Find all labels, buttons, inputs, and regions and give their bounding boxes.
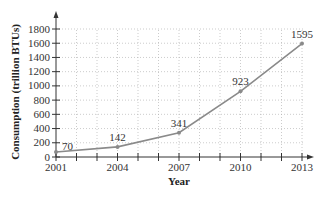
data-point — [177, 131, 181, 135]
x-tick-label: 2010 — [230, 161, 253, 173]
grid-lines — [56, 29, 304, 157]
y-axis-ticks: 020040060080010001200140016001800 — [28, 23, 60, 163]
data-label: 70 — [62, 140, 74, 152]
y-tick-label: 1800 — [28, 23, 51, 35]
y-tick-label: 400 — [34, 122, 51, 134]
data-point — [116, 145, 120, 149]
x-axis-ticks: 20012004200720102013 — [45, 153, 314, 173]
x-tick-label: 2004 — [107, 161, 130, 173]
y-tick-label: 1400 — [28, 51, 51, 63]
data-point — [239, 89, 243, 93]
data-label: 341 — [171, 117, 188, 129]
line-chart: 020040060080010001200140016001800 200120… — [0, 0, 324, 199]
data-point — [300, 42, 304, 46]
y-tick-label: 600 — [34, 108, 51, 120]
data-series: 701423419231595 — [54, 28, 314, 154]
x-axis-arrow-icon — [307, 155, 314, 160]
y-tick-label: 1000 — [28, 79, 51, 91]
data-label: 923 — [232, 75, 249, 87]
x-tick-label: 2013 — [291, 161, 314, 173]
y-tick-label: 1200 — [28, 65, 51, 77]
x-tick-label: 2001 — [45, 161, 67, 173]
data-label: 142 — [109, 131, 126, 143]
x-tick-label: 2007 — [168, 161, 191, 173]
axes — [54, 11, 315, 160]
y-tick-label: 800 — [34, 94, 51, 106]
y-tick-label: 200 — [34, 136, 51, 148]
y-axis-arrow-icon — [54, 11, 59, 18]
y-axis-title: Consumption (trillion BTUs) — [9, 24, 22, 160]
data-label: 1595 — [291, 28, 314, 40]
x-axis-title: Year — [168, 175, 190, 187]
data-point — [54, 150, 58, 154]
y-tick-label: 1600 — [28, 37, 51, 49]
